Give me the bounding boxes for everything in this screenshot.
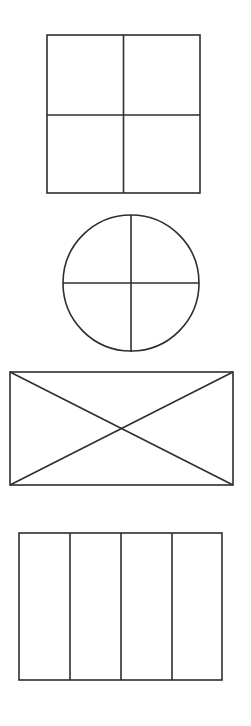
fraction-shapes-diagram (0, 0, 251, 726)
square-quarters-shape (47, 35, 200, 193)
rectangle-diagonals-shape (10, 372, 233, 485)
circle-quarters-shape (63, 215, 199, 352)
rectangle-strips-shape (19, 533, 222, 680)
